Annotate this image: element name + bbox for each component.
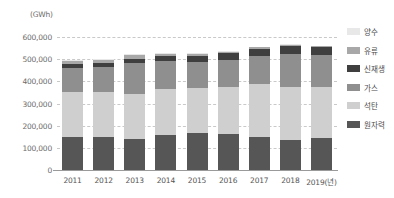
bar-segment-가스 (124, 63, 145, 94)
y-axis-tick-label: 0 (5, 166, 52, 175)
x-axis-tick-label: 2017 (250, 176, 268, 185)
bar-2016 (218, 51, 239, 170)
legend-item-label: 신재생 (364, 63, 384, 74)
legend-item-label: 석탄 (364, 100, 378, 111)
bar-segment-가스 (311, 55, 332, 87)
bar-segment-가스 (280, 54, 301, 88)
bar-segment-석탄 (218, 87, 239, 134)
bar-segment-신재생 (311, 47, 332, 55)
bar-segment-원자력 (155, 135, 176, 170)
bar-segment-석탄 (280, 87, 301, 140)
legend-item-label: 양수 (364, 26, 378, 37)
bar-segment-원자력 (187, 133, 208, 170)
x-axis-tick-label: 2015 (188, 176, 206, 185)
bar-segment-원자력 (280, 140, 301, 170)
y-axis-tick-label: 300,000 (5, 99, 52, 108)
bar-segment-원자력 (93, 137, 114, 170)
chart-legend: 양수유류신재생가스석탄원자력 (347, 26, 384, 130)
y-axis-unit-label: (GWh) (30, 10, 53, 19)
bar-segment-원자력 (62, 137, 83, 170)
bar-segment-원자력 (124, 139, 145, 170)
stacked-bar-chart: (GWh) 0100,000200,000300,000400,000500,0… (0, 0, 394, 198)
bar-segment-석탄 (187, 88, 208, 133)
bar-segment-가스 (155, 61, 176, 89)
legend-swatch-icon (347, 121, 360, 128)
legend-item-nuclear[interactable]: 원자력 (347, 119, 384, 130)
gridline (57, 37, 337, 38)
plot-area: 0100,000200,000300,000400,000500,000600,… (57, 37, 337, 170)
bar-segment-석탄 (311, 87, 332, 137)
bar-segment-원자력 (218, 134, 239, 170)
legend-item-renewable[interactable]: 신재생 (347, 63, 384, 74)
legend-item-coal[interactable]: 석탄 (347, 100, 384, 111)
x-axis-tick-label: 2018 (281, 176, 299, 185)
y-axis-tick-label: 500,000 (5, 55, 52, 64)
legend-item-label: 원자력 (364, 119, 384, 130)
bar-2017 (249, 47, 270, 170)
x-axis-tick-label: 2011 (63, 176, 81, 185)
x-axis-line (53, 170, 338, 171)
bar-segment-석탄 (62, 92, 83, 136)
legend-swatch-icon (347, 65, 360, 72)
bar-2019 (311, 46, 332, 170)
x-axis-tick-label: 2012 (95, 176, 113, 185)
bar-2014 (155, 53, 176, 170)
legend-item-pumped[interactable]: 양수 (347, 26, 384, 37)
bar-segment-원자력 (249, 137, 270, 170)
x-axis-tick-label: 2019(년) (306, 176, 337, 187)
x-axis-tick-label: 2016 (219, 176, 237, 185)
bar-2015 (187, 53, 208, 170)
bar-segment-신재생 (218, 53, 239, 60)
bar-2018 (280, 44, 301, 170)
legend-item-label: 가스 (364, 82, 378, 93)
bar-segment-석탄 (124, 94, 145, 139)
bar-2013 (124, 54, 145, 170)
x-axis-tick-label: 2014 (157, 176, 175, 185)
bar-segment-석탄 (93, 92, 114, 136)
bar-segment-가스 (187, 62, 208, 88)
bar-segment-석탄 (249, 84, 270, 137)
bar-segment-가스 (93, 67, 114, 92)
bar-segment-석탄 (155, 89, 176, 135)
y-axis-tick-label: 100,000 (5, 143, 52, 152)
bar-segment-가스 (218, 60, 239, 87)
bar-segment-신재생 (280, 46, 301, 54)
bar-segment-가스 (249, 56, 270, 84)
bar-segment-신재생 (249, 49, 270, 57)
legend-item-oil[interactable]: 유류 (347, 45, 384, 56)
legend-swatch-icon (347, 47, 360, 54)
bar-2012 (93, 59, 114, 170)
x-axis-tick-label: 2013 (126, 176, 144, 185)
legend-swatch-icon (347, 84, 360, 91)
legend-swatch-icon (347, 102, 360, 109)
legend-item-gas[interactable]: 가스 (347, 82, 384, 93)
legend-swatch-icon (347, 28, 360, 35)
bar-2011 (62, 60, 83, 170)
y-axis-tick-label: 200,000 (5, 121, 52, 130)
bar-segment-가스 (62, 68, 83, 92)
y-axis-tick-label: 400,000 (5, 77, 52, 86)
bar-segment-원자력 (311, 138, 332, 170)
legend-item-label: 유류 (364, 45, 378, 56)
y-axis-tick-label: 600,000 (5, 33, 52, 42)
